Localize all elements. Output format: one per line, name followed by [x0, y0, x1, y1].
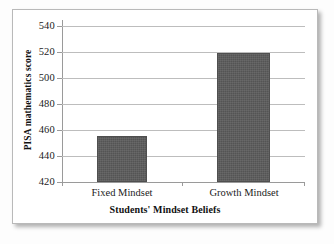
y-tick-label-440: 440 — [27, 151, 55, 162]
bar-growth-mindset[interactable] — [217, 53, 270, 182]
y-tick-label-480: 480 — [27, 99, 55, 110]
x-tick-mark-middle — [182, 182, 183, 186]
x-tick-label-growth-mindset: Growth Mindset — [183, 188, 305, 199]
x-tick-label-fixed-mindset: Fixed Mindset — [62, 188, 182, 199]
figure-root: PISA mathematics score 540 520 500 480 4… — [0, 0, 334, 244]
y-tick-label-460: 460 — [27, 125, 55, 136]
y-tick-label-500: 500 — [27, 73, 55, 84]
gridline-540 — [62, 26, 305, 27]
y-tick-label-420: 420 — [27, 177, 55, 188]
y-tick-label-520: 520 — [27, 47, 55, 58]
y-tick-label-540: 540 — [27, 21, 55, 32]
x-tick-mark-right — [304, 182, 305, 186]
gridline-baseline-420 — [62, 182, 305, 183]
x-axis-title: Students' Mindset Beliefs — [12, 204, 318, 215]
x-tick-mark-left — [62, 182, 63, 186]
bar-fixed-mindset[interactable] — [97, 136, 147, 182]
plot-area — [62, 26, 305, 182]
